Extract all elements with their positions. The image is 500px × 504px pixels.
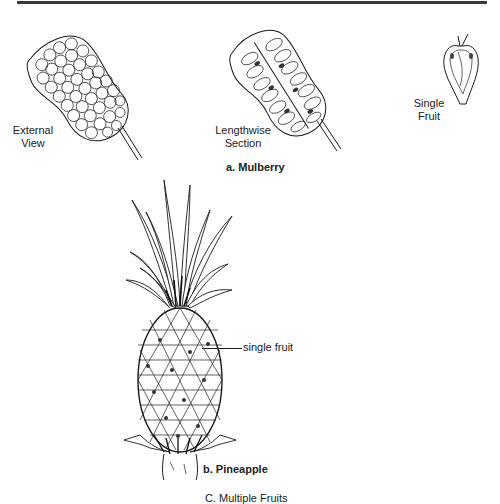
caption-pineapple: b. Pineapple [203,463,268,475]
figure-caption: C. Multiple Fruits [205,492,288,504]
label-lengthwise-section: Lengthwise Section [212,124,274,150]
label-line: View [8,137,58,150]
label-external-view: External View [8,124,58,150]
callout-line [202,348,242,349]
label-line: Lengthwise [212,124,274,137]
callout-single-fruit: single fruit [243,341,293,353]
caption-mulberry: a. Mulberry [226,161,285,173]
label-line: External [8,124,58,137]
pineapple-illustration [120,180,240,480]
label-line: Fruit [410,110,448,123]
label-line: Single [410,97,448,110]
label-single-fruit: Single Fruit [410,97,448,123]
label-line: Section [212,137,274,150]
top-rule [17,1,487,4]
